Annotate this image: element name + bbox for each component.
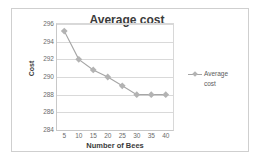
x-tick-label: 20 (104, 133, 111, 140)
y-tick-label: 296 (43, 21, 54, 28)
x-tick-label: 30 (133, 133, 140, 140)
legend-marker-icon (188, 70, 202, 80)
data-point-marker (61, 28, 68, 35)
chart-legend: Average cost (188, 69, 248, 89)
y-tick-label: 294 (43, 38, 54, 45)
legend-label: Average cost (204, 69, 244, 89)
x-tick-label: 25 (119, 133, 126, 140)
x-tick-label: 40 (162, 133, 169, 140)
data-point-marker (162, 91, 169, 98)
x-tick-label: 15 (90, 133, 97, 140)
data-point-marker (119, 82, 126, 89)
y-tick-label: 284 (43, 127, 54, 134)
y-axis-title: Cost (28, 61, 35, 77)
y-tick-label: 288 (43, 91, 54, 98)
x-axis-title: Number of Bees (56, 141, 174, 150)
x-tick-label: 10 (75, 133, 82, 140)
legend-label-line1: Average (204, 70, 228, 77)
x-tick-label: 35 (148, 133, 155, 140)
series-average-cost (57, 24, 173, 130)
y-tick-label: 292 (43, 56, 54, 63)
x-tick-label: 5 (62, 133, 66, 140)
data-point-marker (148, 91, 155, 98)
series-line (64, 31, 166, 95)
legend-label-line2: cost (204, 80, 216, 87)
data-point-marker (133, 91, 140, 98)
plot-area: 284286288290292294296 510152025303540 (56, 23, 174, 131)
chart-frame: Average cost Cost 284286288290292294296 … (11, 8, 249, 152)
y-tick-label: 286 (43, 109, 54, 116)
y-tick-label: 290 (43, 74, 54, 81)
data-point-marker (104, 74, 111, 81)
